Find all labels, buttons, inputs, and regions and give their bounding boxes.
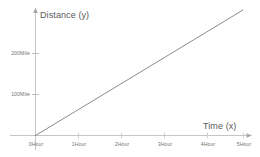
y-axis-title: Distance (y) bbox=[40, 11, 89, 20]
chart-plot-area bbox=[0, 0, 260, 157]
x-tick-label-0hour: 0Hour bbox=[20, 142, 52, 147]
x-axis-title: Time (x) bbox=[203, 122, 236, 131]
y-tick-label-200: 200Mile bbox=[8, 51, 30, 56]
x-axis-arrow-icon bbox=[247, 133, 253, 138]
x-tick-label-1hour: 1Hour bbox=[63, 142, 95, 147]
y-axis-arrow-icon bbox=[33, 8, 38, 14]
data-line-distance bbox=[36, 10, 244, 136]
x-tick-label-5hour: 5Hour bbox=[228, 142, 260, 147]
y-tick-label-100: 100Mile bbox=[8, 92, 30, 97]
x-tick-label-2hour: 2Hour bbox=[106, 142, 138, 147]
x-tick-label-4hour: 4Hour bbox=[192, 142, 224, 147]
x-tick-label-3hour: 3Hour bbox=[149, 142, 181, 147]
distance-time-chart: Distance (y) Time (x) 200Mile 100Mile 0H… bbox=[0, 0, 260, 157]
